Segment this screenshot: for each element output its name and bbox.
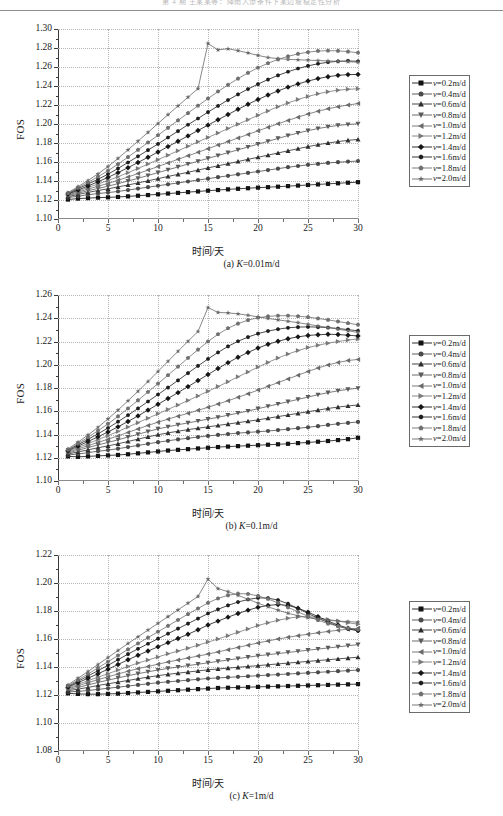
series-v=1.6m/d [66,325,360,452]
legend-label: v=1.8m/d [432,424,466,433]
caption-value: =1m/d [249,791,274,801]
legend-marker-triangle-right-icon [412,391,432,401]
legend-item-6[interactable]: v=1.4m/d [412,668,466,679]
legend-item-7[interactable]: v=1.6m/d [412,678,466,689]
x-tick-label: 10 [146,755,170,765]
legend-item-1[interactable]: v=0.4m/d [412,349,466,360]
x-tick-label: 25 [296,223,320,233]
legend-label: v=1.4m/d [432,669,466,678]
legend-c[interactable]: v=0.2m/dv=0.4m/dv=0.6m/dv=0.8m/dv=1.0m/d… [409,601,470,713]
plot-area-b [58,295,358,481]
legend-marker-square-icon [412,604,432,614]
plot-area-c [58,555,358,751]
legend-item-6[interactable]: v=1.4m/d [412,402,466,413]
y-tick-label: 1.10 [20,717,52,727]
legend-item-9[interactable]: v=2.0m/d [412,699,466,710]
legend-marker-triangle-down-icon [412,636,432,646]
legend-item-3[interactable]: v=0.8m/d [412,110,466,121]
y-tick-label: 1.22 [20,336,52,346]
series-v=0.8m/d [66,122,361,199]
x-axis-title: 时间/天 [58,775,358,790]
legend-item-5[interactable]: v=1.2m/d [412,131,466,142]
legend-label: v=1.4m/d [432,403,466,412]
x-axis-title: 时间/天 [58,505,358,520]
legend-item-2[interactable]: v=0.6m/d [412,99,466,110]
x-tick-minor [133,219,134,222]
y-axis-title: FOS [14,648,26,669]
legend-item-3[interactable]: v=0.8m/d [412,370,466,381]
x-tick-minor [333,751,334,754]
legend-item-0[interactable]: v=0.2m/d [412,604,466,615]
legend-label: v=1.6m/d [432,153,466,162]
figure-a: 1.101.121.141.161.181.201.221.241.261.28… [0,11,503,273]
legend-item-4[interactable]: v=1.0m/d [412,646,466,657]
y-tick-label: 1.12 [20,689,52,699]
legend-marker-square-icon [412,78,432,88]
x-tick-label: 25 [296,485,320,495]
legend-item-6[interactable]: v=1.4m/d [412,142,466,153]
legend-item-2[interactable]: v=0.6m/d [412,359,466,370]
legend-item-0[interactable]: v=0.2m/d [412,338,466,349]
x-tick-label: 20 [246,755,270,765]
legend-label: v=1.0m/d [432,647,466,656]
legend-label: v=1.8m/d [432,690,466,699]
x-tick-label: 0 [46,223,70,233]
y-tick-label: 1.24 [20,312,52,322]
caption-value: =0.01m/d [243,259,280,269]
legend-item-5[interactable]: v=1.2m/d [412,391,466,402]
x-tick-label: 5 [96,755,120,765]
legend-marker-pentagon-icon [412,423,432,433]
legend-item-9[interactable]: v=2.0m/d [412,173,466,184]
legend-item-9[interactable]: v=2.0m/d [412,433,466,444]
series-v=2.0m/d [66,576,361,687]
legend-item-5[interactable]: v=1.2m/d [412,657,466,668]
y-tick-label: 1.18 [20,605,52,615]
legend-item-7[interactable]: v=1.6m/d [412,152,466,163]
x-tick-minor [183,751,184,754]
figure-b: 1.101.121.141.161.181.201.221.241.260510… [0,273,503,533]
series-v=0.6m/d [66,402,361,456]
legend-marker-circle-icon [412,89,432,99]
y-tick-label: 1.26 [20,61,52,71]
figure-caption-c: (c) K=1m/d [0,791,503,801]
caption-prefix: (c) [229,791,242,801]
y-tick-label: 1.28 [20,42,52,52]
legend-item-0[interactable]: v=0.2m/d [412,78,466,89]
y-tick-label: 1.22 [20,99,52,109]
series-v=1.2m/d [66,86,361,197]
y-tick-label: 1.20 [20,359,52,369]
legend-item-4[interactable]: v=1.0m/d [412,120,466,131]
y-axis-title: FOS [14,119,26,140]
legend-a[interactable]: v=0.2m/dv=0.4m/dv=0.6m/dv=0.8m/dv=1.0m/d… [409,75,470,187]
legend-marker-pentagon-icon [412,163,432,173]
y-tick-label: 1.30 [20,23,52,33]
x-tick-minor [283,751,284,754]
legend-item-8[interactable]: v=1.8m/d [412,689,466,700]
legend-item-3[interactable]: v=0.8m/d [412,636,466,647]
legend-item-1[interactable]: v=0.4m/d [412,615,466,626]
x-tick-minor [233,481,234,484]
y-axis-title: FOS [14,383,26,404]
legend-label: v=1.6m/d [432,413,466,422]
y-tick-label: 1.20 [20,577,52,587]
legend-label: v=0.8m/d [432,371,466,380]
legend-item-1[interactable]: v=0.4m/d [412,89,466,100]
legend-marker-triangle-up-icon [412,359,432,369]
legend-item-8[interactable]: v=1.8m/d [412,423,466,434]
legend-item-4[interactable]: v=1.0m/d [412,380,466,391]
y-tick-label: 1.10 [20,213,52,223]
y-tick-label: 1.12 [20,452,52,462]
x-tick-label: 30 [346,223,370,233]
legend-item-7[interactable]: v=1.6m/d [412,412,466,423]
caption-value: =0.1m/d [245,521,277,531]
legend-b[interactable]: v=0.2m/dv=0.4m/dv=0.6m/dv=0.8m/dv=1.0m/d… [409,335,470,447]
legend-item-8[interactable]: v=1.8m/d [412,163,466,174]
plot-area-a [58,29,358,219]
legend-label: v=2.0m/d [432,174,466,183]
legend-marker-triangle-down-icon [412,370,432,380]
legend-marker-triangle-left-icon [412,381,432,391]
y-tick-label: 1.08 [20,745,52,755]
legend-item-2[interactable]: v=0.6m/d [412,625,466,636]
y-tick-label: 1.26 [20,289,52,299]
series-layer [58,29,358,219]
